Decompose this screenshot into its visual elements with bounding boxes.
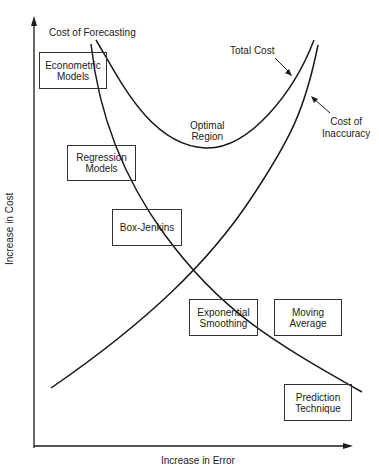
cost-of-forecasting-label: Cost of Forecasting xyxy=(49,27,136,38)
pointer-arrow-icon xyxy=(285,69,292,76)
box-regression-models: Regression Models xyxy=(67,145,136,181)
box-text-line2: Models xyxy=(57,71,89,82)
box-text-line1: Econometric xyxy=(45,60,101,71)
box-text-line2: Average xyxy=(289,318,326,329)
forecasting-cost-diagram: Cost of Forecasting Total Cost Cost of I… xyxy=(0,0,379,475)
box-text-line2: Smoothing xyxy=(200,318,248,329)
cost-of-inaccuracy-pointer xyxy=(311,96,330,113)
cost-of-inaccuracy-curve xyxy=(51,45,318,388)
total-cost-pointer xyxy=(275,58,292,76)
box-prediction-technique: Prediction Technique xyxy=(284,384,352,421)
box-box-jenkins: Box-Jenkins xyxy=(112,209,182,246)
x-axis xyxy=(34,443,353,449)
box-text-line2: Models xyxy=(85,163,117,174)
cost-of-inaccuracy-line2: Inaccuracy xyxy=(322,128,370,140)
x-axis-label: Increase in Error xyxy=(161,455,235,466)
box-text-line2: Technique xyxy=(295,403,341,414)
box-text-line1: Exponential xyxy=(197,307,249,318)
cost-of-inaccuracy-line1: Cost of xyxy=(322,116,370,128)
optimal-region-line1: Optimal xyxy=(190,120,224,131)
box-econometric-models: Econometric Models xyxy=(39,52,107,89)
y-axis-arrow-icon xyxy=(31,16,37,26)
y-axis xyxy=(31,16,37,448)
box-text-line1: Regression xyxy=(76,152,127,163)
box-text-line1: Prediction xyxy=(296,392,340,403)
box-text-line1: Moving xyxy=(292,307,324,318)
total-cost-label: Total Cost xyxy=(230,45,274,56)
box-moving-average: Moving Average xyxy=(274,299,342,336)
cost-of-inaccuracy-label: Cost of Inaccuracy xyxy=(322,116,370,140)
optimal-region-line2: Region xyxy=(190,131,224,142)
box-exponential-smoothing: Exponential Smoothing xyxy=(189,299,258,336)
x-axis-arrow-icon xyxy=(343,443,353,449)
y-axis-label: Increase in Cost xyxy=(4,193,15,265)
optimal-region-label: Optimal Region xyxy=(190,120,224,142)
box-text-line1: Box-Jenkins xyxy=(120,222,174,233)
